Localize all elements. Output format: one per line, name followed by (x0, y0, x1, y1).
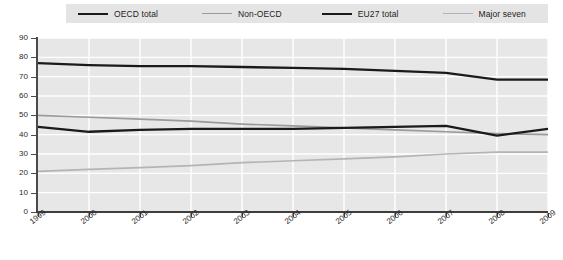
legend-item-major-seven[interactable]: Major seven (443, 4, 526, 23)
legend-label: EU27 total (358, 9, 399, 19)
y-axis (36, 37, 38, 213)
line-swatch-icon (78, 13, 108, 15)
y-axis-tick-label: 40 (0, 130, 28, 139)
y-axis-tick (31, 193, 36, 194)
plot-svg (38, 38, 548, 212)
y-axis-tick-label: 50 (0, 110, 28, 119)
legend-label: Major seven (479, 9, 526, 19)
legend-item-eu27-total[interactable]: EU27 total (322, 4, 399, 23)
y-axis-tick (31, 135, 36, 136)
y-axis-tick-label: 90 (0, 33, 28, 42)
line-swatch-icon (202, 13, 232, 14)
line-swatch-icon (322, 13, 352, 15)
y-axis-tick-label: 20 (0, 168, 28, 177)
legend-label: Non-OECD (238, 9, 282, 19)
y-axis-tick-label: 60 (0, 91, 28, 100)
legend-item-oecd-total[interactable]: OECD total (78, 4, 158, 23)
y-axis-tick (31, 57, 36, 58)
x-axis-tick-label: 1999 (28, 208, 48, 226)
legend-label: OECD total (114, 9, 158, 19)
y-axis-tick-label: 0 (0, 207, 28, 216)
legend-item-non-oecd[interactable]: Non-OECD (202, 4, 282, 23)
y-axis-tick (31, 96, 36, 97)
plot-area (38, 38, 548, 212)
y-axis-tick-label: 10 (0, 188, 28, 197)
y-axis-tick (31, 154, 36, 155)
y-axis-tick (31, 77, 36, 78)
y-axis-tick (31, 115, 36, 116)
y-axis-tick (31, 173, 36, 174)
y-axis-tick-label: 70 (0, 72, 28, 81)
line-swatch-icon (443, 13, 473, 14)
line-chart: OECD total Non-OECD EU27 total Major sev… (0, 0, 563, 260)
chart-legend: OECD total Non-OECD EU27 total Major sev… (66, 4, 548, 23)
y-axis-tick (31, 38, 36, 39)
y-axis-tick-label: 30 (0, 149, 28, 158)
y-axis-tick-label: 80 (0, 52, 28, 61)
